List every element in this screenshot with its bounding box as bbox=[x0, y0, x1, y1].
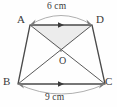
vertex-label-b: B bbox=[3, 76, 10, 87]
shaded-triangle-aod bbox=[30, 25, 92, 51]
dimension-arrow-top-left-icon bbox=[30, 20, 36, 26]
dimension-label-top: 6 cm bbox=[47, 2, 66, 12]
intersection-dot bbox=[60, 50, 61, 51]
trapezium-figure: A D B C O 6 cm 9 cm bbox=[0, 0, 117, 107]
vertex-label-c: C bbox=[105, 76, 112, 87]
mark-bc-icon bbox=[58, 81, 64, 87]
intersection-label-o: O bbox=[59, 56, 66, 66]
vertex-label-d: D bbox=[96, 14, 104, 25]
vertex-label-a: A bbox=[17, 14, 25, 25]
dimension-label-bottom: 9 cm bbox=[45, 93, 64, 103]
dimension-arc-top bbox=[30, 16, 92, 26]
